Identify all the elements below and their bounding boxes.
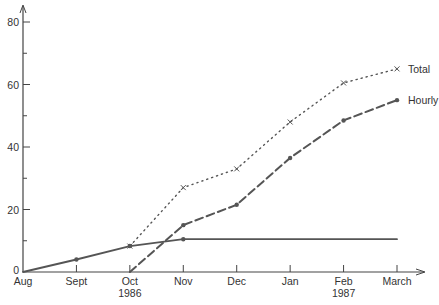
legend-label-total: Total [408,63,430,75]
x-tick-sublabel: 1986 [118,287,142,299]
x-tick-label: Jan [282,275,299,287]
dot-marker-icon [235,203,239,207]
y-tick-label: 40 [7,141,19,153]
x-marker-icon [395,66,400,71]
dot-marker-icon [181,237,185,241]
x-marker-icon [288,120,293,125]
dot-marker-icon [74,257,78,261]
dot-marker-icon [181,223,185,227]
total-series-line [130,69,397,246]
x-tick-sublabel: 1987 [332,287,356,299]
dot-marker-icon [341,118,345,122]
dot-marker-icon [395,98,399,102]
chart-axes [20,5,425,275]
axis-ticks: 020406080AugSeptOct1986NovDecJanFeb1987M… [7,16,411,299]
x-tick-label: March [382,275,411,287]
chart-series [23,66,400,272]
x-marker-icon [341,80,346,85]
x-tick-label: Aug [14,275,33,287]
dot-marker-icon [128,244,132,248]
legend-label-hourly: Hourly [408,94,439,106]
x-tick-label: Nov [174,275,193,287]
baseline-series-line [23,239,397,272]
x-marker-icon [234,166,239,171]
x-tick-label: Oct [122,275,138,287]
hourly-series-line [130,100,397,272]
chart-legend: TotalHourly [408,63,439,106]
line-chart: 020406080AugSeptOct1986NovDecJanFeb1987M… [0,0,439,305]
y-tick-label: 60 [7,79,19,91]
x-tick-label: Feb [335,275,353,287]
x-marker-icon [181,185,186,190]
x-tick-label: Sept [66,275,88,287]
y-tick-label: 20 [7,204,19,216]
dot-marker-icon [288,156,292,160]
x-tick-label: Dec [227,275,246,287]
y-tick-label: 80 [7,16,19,28]
